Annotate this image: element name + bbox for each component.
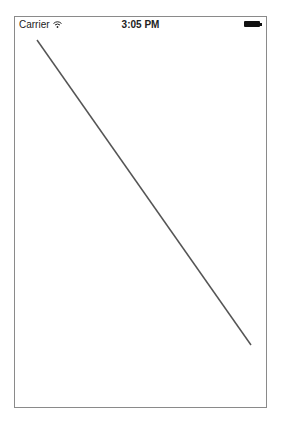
drawing-canvas[interactable]: [0, 0, 283, 427]
drawn-line: [37, 40, 251, 345]
